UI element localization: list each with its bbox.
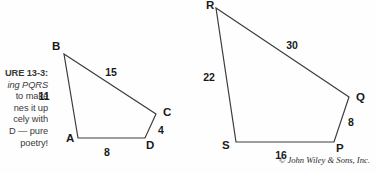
side-length-qp: 8	[348, 116, 354, 128]
vertex-label-r: R	[206, 0, 215, 11]
side-length-rs: 22	[203, 71, 215, 83]
geometry-diagram: ABCD111548RQPS2230816	[0, 0, 376, 173]
copyright-notice: © John Wiley & Sons, Inc.	[279, 155, 370, 165]
quadrilateral-pqrs-outline	[216, 8, 349, 142]
vertex-label-p: P	[336, 142, 344, 154]
figure-page: URE 13-3: ing PQRS to make nes it up cel…	[0, 0, 376, 173]
vertex-label-s: S	[222, 139, 230, 151]
side-length-bc: 15	[105, 66, 117, 78]
vertex-label-c: C	[163, 106, 171, 118]
side-length-ab: 11	[38, 90, 49, 102]
side-length-rq: 30	[286, 39, 298, 51]
vertex-label-d: D	[146, 139, 154, 151]
side-length-cd: 4	[158, 124, 164, 136]
diagram-labels: ABCD111548RQPS2230816	[38, 0, 365, 161]
side-length-da: 8	[104, 146, 110, 158]
vertex-label-q: Q	[356, 91, 365, 103]
vertex-label-b: B	[52, 40, 60, 52]
vertex-label-a: A	[66, 132, 74, 144]
